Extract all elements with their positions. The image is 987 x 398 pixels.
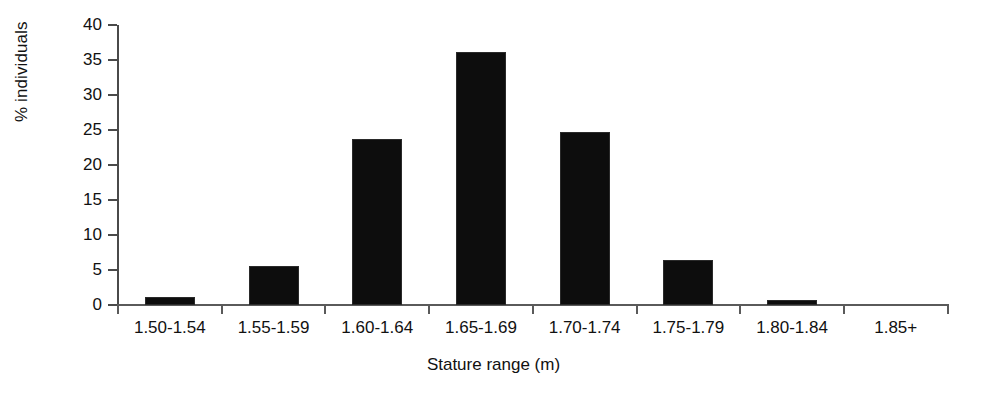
x-axis-labels-layer: 1.50-1.541.55-1.591.60-1.641.65-1.691.70… (0, 0, 987, 398)
x-axis-title: Stature range (m) (0, 355, 987, 375)
bar-chart: % individuals 0510152025303540 1.50-1.54… (0, 0, 987, 398)
x-axis-tick-label: 1.85+ (831, 318, 961, 338)
